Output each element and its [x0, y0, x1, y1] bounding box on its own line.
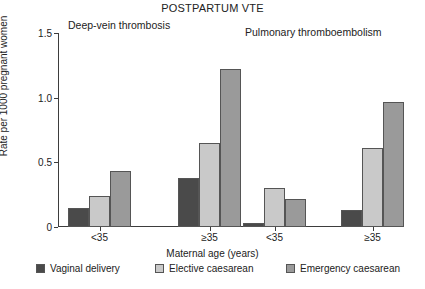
legend-swatch-icon	[286, 264, 295, 273]
x-tick-mark	[275, 227, 276, 231]
y-tick-mark	[54, 227, 58, 228]
bar	[220, 69, 241, 227]
x-axis-title: Maternal age (years)	[0, 248, 425, 259]
plot-area: 00.51.01.5 <35≥35<35≥35	[58, 33, 403, 227]
y-tick-label: 1.5	[38, 28, 52, 39]
x-tick-label: ≥35	[201, 232, 218, 243]
y-tick-mark	[54, 162, 58, 163]
y-tick-label: 0.5	[38, 157, 52, 168]
bar	[383, 102, 404, 227]
bar	[341, 210, 362, 227]
legend-label: Elective caesarean	[169, 263, 254, 274]
bar	[110, 171, 131, 227]
y-tick-mark	[54, 33, 58, 34]
legend: Vaginal delivery Elective caesarean Emer…	[0, 263, 425, 283]
x-tick-label: <35	[266, 232, 283, 243]
bar	[264, 188, 285, 227]
bar	[178, 178, 199, 227]
x-tick-label: <35	[91, 232, 108, 243]
y-axis-line	[58, 33, 59, 227]
bar	[68, 208, 89, 227]
legend-swatch-icon	[155, 264, 164, 273]
x-tick-mark	[100, 227, 101, 231]
bar	[243, 223, 264, 227]
panel-label-deep-vein-thrombosis: Deep-vein thrombosis	[68, 19, 170, 31]
legend-label: Emergency caesarean	[300, 263, 400, 274]
y-tick-mark	[54, 98, 58, 99]
bar	[199, 143, 220, 227]
bar	[285, 199, 306, 227]
bar	[362, 148, 383, 227]
x-tick-label: ≥35	[364, 232, 381, 243]
legend-label: Vaginal delivery	[50, 263, 120, 274]
legend-item-elective-caesarean[interactable]: Elective caesarean	[155, 263, 254, 274]
bar	[89, 196, 110, 227]
y-tick-label: 1.0	[38, 92, 52, 103]
y-axis-title: Rate per 1000 pregnant women	[0, 16, 9, 157]
legend-item-vaginal-delivery[interactable]: Vaginal delivery	[36, 263, 120, 274]
x-tick-mark	[210, 227, 211, 231]
legend-swatch-icon	[36, 264, 45, 273]
page-title: POSTPARTUM VTE	[0, 2, 425, 14]
y-tick-label: 0	[46, 222, 52, 233]
x-tick-mark	[373, 227, 374, 231]
legend-item-emergency-caesarean[interactable]: Emergency caesarean	[286, 263, 400, 274]
